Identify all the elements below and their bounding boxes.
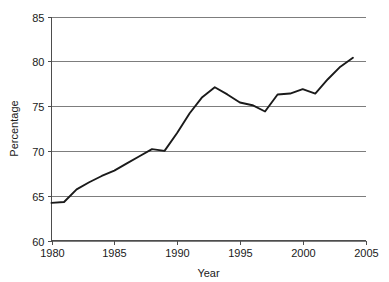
y-tick-label-70: 70 <box>32 146 44 158</box>
y-axis-title: Percentage <box>8 100 20 156</box>
y-tick-label-65: 65 <box>32 191 44 203</box>
x-axis-ticks: 198019851990199520002005 <box>40 241 378 259</box>
axes <box>52 17 366 241</box>
x-tick-label-2005: 2005 <box>354 247 378 259</box>
x-tick-label-1985: 1985 <box>102 247 126 259</box>
y-tick-label-75: 75 <box>32 101 44 113</box>
chart-canvas: 606570758085198019851990199520002005Year… <box>0 0 389 282</box>
data-series-line-0 <box>52 58 353 203</box>
x-tick-label-2000: 2000 <box>291 247 315 259</box>
x-tick-label-1995: 1995 <box>228 247 252 259</box>
line-chart: 606570758085198019851990199520002005Year… <box>0 0 389 282</box>
gridlines <box>52 18 366 242</box>
x-axis-title: Year <box>197 267 220 279</box>
y-tick-label-85: 85 <box>32 12 44 24</box>
x-tick-label-1990: 1990 <box>165 247 189 259</box>
y-axis-ticks: 606570758085 <box>32 12 51 248</box>
y-tick-label-80: 80 <box>32 56 44 68</box>
x-tick-label-1980: 1980 <box>40 247 64 259</box>
